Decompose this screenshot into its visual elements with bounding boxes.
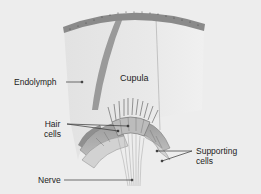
diagram-canvas: Endolymph Cupula Hair cells Supporting c…	[0, 0, 261, 194]
label-nerve: Nerve	[38, 175, 61, 185]
label-hair-cells-line2: cells	[44, 129, 61, 139]
hair-cells-cluster	[112, 117, 150, 136]
label-hair-cells-line1: Hair	[44, 119, 61, 129]
label-endolymph: Endolymph	[14, 77, 57, 87]
label-supporting-cells: Supporting cells	[196, 146, 237, 166]
label-cupula: Cupula	[120, 73, 149, 83]
label-supporting-cells-line2: cells	[196, 156, 237, 166]
label-supporting-cells-line1: Supporting	[196, 146, 237, 156]
label-hair-cells: Hair cells	[44, 119, 61, 139]
